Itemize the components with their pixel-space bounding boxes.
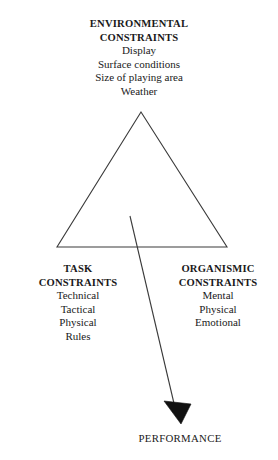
- task-constraints-item: Physical: [8, 316, 148, 330]
- organismic-constraints-item: Physical: [158, 303, 278, 317]
- organismic-constraints-title-line2: CONSTRAINTS: [158, 276, 278, 290]
- environmental-constraints-block: ENVIRONMENTAL CONSTRAINTS Display Surfac…: [0, 17, 278, 99]
- organismic-constraints-title-line1: ORGANISMIC: [158, 262, 278, 276]
- environmental-constraints-item: Display: [0, 44, 278, 58]
- task-constraints-item: Rules: [8, 330, 148, 344]
- task-constraints-item: Tactical: [8, 303, 148, 317]
- performance-label: PERFORMANCE: [98, 432, 262, 446]
- task-constraints-title-line1: TASK: [8, 262, 148, 276]
- task-constraints-block: TASK CONSTRAINTS Technical Tactical Phys…: [8, 262, 148, 344]
- performance-block: PERFORMANCE: [98, 432, 262, 446]
- environmental-constraints-item: Weather: [0, 85, 278, 99]
- environmental-constraints-title-line1: ENVIRONMENTAL: [0, 17, 278, 31]
- organismic-constraints-block: ORGANISMIC CONSTRAINTS Mental Physical E…: [158, 262, 278, 330]
- organismic-constraints-item: Emotional: [158, 316, 278, 330]
- environmental-constraints-item: Size of playing area: [0, 71, 278, 85]
- performance-arrow-head: [164, 401, 191, 424]
- constraints-triangle-shape: [57, 112, 227, 247]
- organismic-constraints-item: Mental: [158, 289, 278, 303]
- constraints-diagram: ENVIRONMENTAL CONSTRAINTS Display Surfac…: [0, 0, 278, 460]
- task-constraints-title-line2: CONSTRAINTS: [8, 276, 148, 290]
- environmental-constraints-item: Surface conditions: [0, 58, 278, 72]
- task-constraints-item: Technical: [8, 289, 148, 303]
- environmental-constraints-title-line2: CONSTRAINTS: [0, 31, 278, 45]
